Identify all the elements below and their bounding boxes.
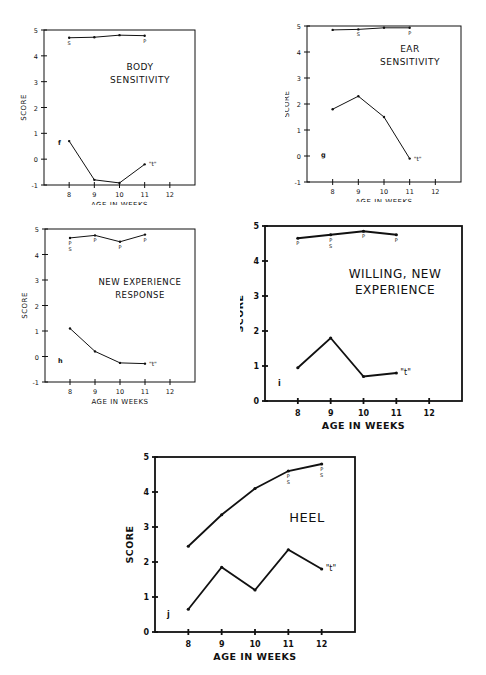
plot-frame (44, 30, 195, 185)
plot-frame (307, 26, 461, 182)
y-tick-label: 5 (143, 453, 149, 462)
y-tick-label: 4 (35, 252, 39, 260)
series-line-t (70, 328, 145, 363)
y-tick-label: 3 (34, 79, 38, 87)
y-tick-label: 5 (35, 226, 39, 234)
panel-letter: g (321, 151, 326, 159)
y-tick-label: 4 (253, 257, 259, 266)
panel-letter: f (58, 139, 61, 147)
y-tick-label: 4 (143, 488, 149, 497)
y-tick-label: 0 (143, 628, 149, 637)
series-line-t (298, 338, 396, 377)
panel-letter: i (278, 379, 281, 388)
y-tick-label: 0 (253, 397, 259, 406)
chart-title: EXPERIENCE (355, 283, 435, 297)
point-annotation: P (143, 38, 146, 44)
x-axis-label: AGE IN WEEKS (91, 398, 148, 405)
series-line-t (69, 141, 145, 183)
x-tick-label: 12 (166, 191, 174, 199)
point-annotation: P (118, 244, 121, 250)
y-tick-label: 2 (143, 558, 149, 567)
y-tick-label: 1 (297, 127, 301, 135)
point-annotation: P (408, 30, 411, 36)
y-tick-label: 2 (297, 101, 301, 109)
y-tick-label: 5 (34, 27, 38, 35)
x-tick-label: 11 (141, 388, 149, 396)
plot-frame (265, 226, 462, 401)
y-tick-label: 2 (35, 303, 39, 311)
panel-letter: j (166, 610, 170, 619)
x-tick-label: 11 (283, 640, 295, 649)
x-tick-label: 9 (93, 388, 97, 396)
y-tick-label: 1 (143, 593, 149, 602)
x-tick-label: 10 (249, 640, 261, 649)
y-tick-label: 4 (34, 53, 38, 61)
chart-title: HEEL (289, 510, 325, 525)
x-axis-label: AGE IN WEEKS (355, 198, 412, 202)
point-annotation: S (68, 40, 71, 46)
x-tick-label: 8 (295, 409, 301, 418)
x-tick-label: 8 (331, 188, 335, 196)
x-tick-label: 8 (67, 191, 71, 199)
point-annotation: P (362, 233, 365, 239)
y-tick-label: -1 (32, 182, 38, 190)
chart-title: EAR (400, 44, 420, 54)
point-annotation: S (68, 246, 71, 252)
series-line-score (70, 235, 145, 242)
chart-title: BODY (126, 62, 153, 72)
x-tick-label: 9 (356, 188, 360, 196)
series-end-label: "t" (326, 564, 337, 573)
y-tick-label: 1 (253, 362, 259, 371)
chart-j: 01234589101112AGE IN WEEKSSCOREHEELjPSPS… (125, 447, 370, 675)
point-annotation: S (320, 472, 323, 478)
x-tick-label: 12 (424, 409, 435, 418)
y-tick-label: 2 (253, 327, 259, 336)
series-line-score (188, 464, 321, 546)
chart-title: SENSITIVITY (110, 75, 170, 85)
x-tick-label: 9 (92, 191, 96, 199)
x-tick-label: 10 (380, 188, 388, 196)
y-tick-label: 0 (34, 156, 38, 164)
x-tick-label: 10 (358, 409, 370, 418)
series-end-label: "t" (400, 368, 411, 377)
y-tick-label: 0 (35, 354, 39, 362)
chart-i: 01234589101112AGE IN WEEKSSCOREWILLING, … (240, 218, 480, 436)
series-line-t (333, 96, 410, 158)
y-tick-label: 3 (253, 292, 259, 301)
series-line-score (69, 35, 145, 38)
chart-title: NEW EXPERIENCE (99, 277, 182, 287)
x-tick-label: 10 (115, 191, 123, 199)
x-tick-label: 10 (116, 388, 124, 396)
series-end-label: "t" (414, 155, 422, 162)
y-tick-label: -1 (33, 379, 39, 387)
x-tick-label: 12 (166, 388, 174, 396)
y-tick-label: 0 (297, 153, 301, 161)
x-tick-label: 11 (391, 409, 403, 418)
plot-frame (45, 229, 195, 382)
y-tick-label: 3 (297, 75, 301, 83)
x-tick-label: 9 (219, 640, 225, 649)
x-tick-label: 8 (68, 388, 72, 396)
y-tick-label: 1 (35, 328, 39, 336)
y-axis-label: SCORE (240, 294, 245, 332)
point-annotation: P (93, 237, 96, 243)
series-line-score (298, 231, 396, 238)
chart-f: -101234589101112AGE IN WEEKSSCOREBODYSEN… (20, 25, 210, 205)
point-annotation: S (287, 479, 290, 485)
x-tick-label: 9 (328, 409, 334, 418)
point-annotation: P (296, 240, 299, 246)
x-tick-label: 8 (186, 640, 192, 649)
y-tick-label: 3 (35, 277, 39, 285)
y-axis-label: SCORE (285, 91, 291, 118)
y-tick-label: 3 (143, 523, 149, 532)
y-tick-label: 5 (253, 222, 259, 231)
x-tick-label: 12 (431, 188, 439, 196)
x-axis-label: AGE IN WEEKS (213, 651, 296, 662)
series-line-t (188, 550, 321, 610)
y-tick-label: 1 (34, 130, 38, 138)
point-annotation: P (395, 237, 398, 243)
chart-title: WILLING, NEW (349, 267, 442, 281)
point-annotation: S (329, 243, 332, 249)
chart-h: -101234589101112AGE IN WEEKSSCORENEW EXP… (20, 225, 210, 405)
x-tick-label: 11 (406, 188, 414, 196)
